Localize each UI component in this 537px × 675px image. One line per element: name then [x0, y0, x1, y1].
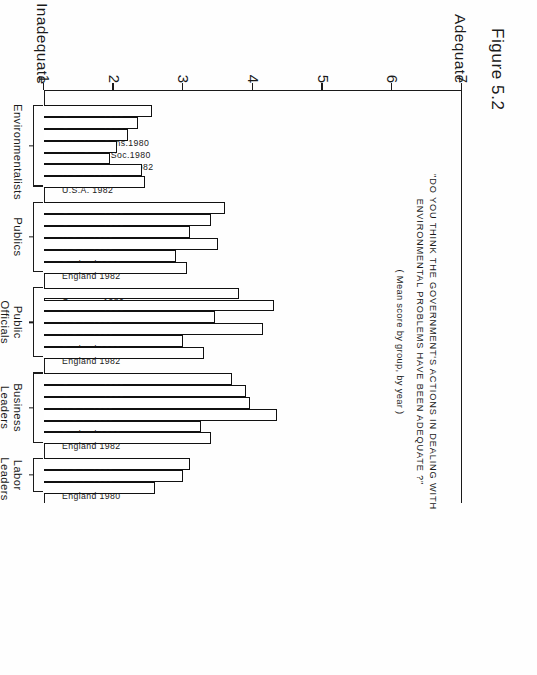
bar-group-labor-leaders: LaborLeaders [0, 457, 44, 493]
rotated-figure-stage: Figure 5.2 "DO YOU THINK THE GOVERNMENT'… [0, 0, 537, 675]
group-name: PublicOfficials [0, 287, 24, 358]
bar-label: England 1980 [62, 492, 120, 501]
bar-group-business-leaders: BusinessLeaders [0, 372, 44, 443]
axis-high-label: Adequate [451, 14, 469, 84]
bars-layer: Germany 1980Germany 1982U.K. Nat. Cons.1… [44, 91, 462, 503]
bar: U.S.A. 1980 [44, 397, 250, 409]
brace-left-tick [34, 372, 43, 373]
bar: U.S.A. 1982 [44, 409, 277, 421]
bar: U.S.A. 1980 [44, 164, 142, 176]
group-name-line: Officials [0, 287, 11, 358]
group-brace [32, 104, 43, 187]
group-brace [32, 372, 43, 443]
bar: Germany 1980 [44, 105, 152, 117]
group-name: Environmentalists [11, 104, 24, 187]
brace-left-tick [34, 458, 43, 459]
group-name-line: Public [11, 287, 24, 358]
bar-label: U.S.A. 1982 [62, 187, 113, 196]
group-labels-layer: EnvironmentalistsPublicsPublicOfficialsB… [0, 90, 44, 503]
group-name: Publics [11, 201, 24, 272]
tick-label: 1 [37, 75, 52, 83]
group-name-line: Leaders [0, 372, 11, 443]
group-name-line: Environmentalists [11, 104, 24, 187]
bar-label: England 1982 [62, 272, 120, 281]
bar: U.S.A. 1980 [44, 226, 190, 238]
brace-left-tick [34, 202, 43, 203]
tick-label: 2 [106, 75, 121, 83]
bar: England 1980 [44, 421, 201, 433]
group-name: BusinessLeaders [0, 372, 24, 443]
brace-left-tick [34, 287, 43, 288]
brace-right-tick [34, 491, 43, 492]
brace-right-tick [34, 356, 43, 357]
bar: England 1982 [44, 262, 187, 274]
bar: U.S.A. 1982 [44, 323, 263, 335]
bar: U.S.A. 1982 [44, 238, 218, 250]
group-name-line: Publics [11, 201, 24, 272]
brace-stem [29, 145, 34, 146]
bar: Germany 1980 [44, 373, 232, 385]
group-name-line: Business [11, 372, 24, 443]
bar: Germany 1982 [44, 214, 211, 226]
tick-mark [43, 83, 44, 90]
group-brace [32, 201, 43, 272]
bar: Germany 1980 [44, 202, 225, 214]
tick-label: 6 [385, 75, 400, 83]
group-name-line: Labor [11, 457, 24, 493]
bar: U.S.A. 1980 [44, 311, 215, 323]
brace-left-tick [34, 105, 43, 106]
group-brace [32, 457, 43, 493]
tick-mark [321, 83, 322, 90]
bar: U.S.A. 1982 [44, 176, 145, 188]
tick-mark [391, 83, 392, 90]
brace-stem [29, 407, 34, 408]
bar: Germany 1982 [44, 117, 138, 129]
group-name-line: Leaders [0, 457, 11, 493]
bar-group-environmentalists: Environmentalists [0, 104, 44, 187]
group-name: LaborLeaders [0, 457, 24, 493]
bar: England 1982 [44, 432, 211, 444]
bar-group-public-officials: PublicOfficials [0, 287, 44, 358]
group-brace [32, 287, 43, 358]
bar: Germany 1982 [44, 385, 246, 397]
axis-low-label: Inadequate [33, 3, 51, 85]
brace-stem [29, 474, 34, 475]
tick-label: 7 [455, 75, 470, 83]
brace-stem [29, 322, 34, 323]
tick-label: 4 [246, 75, 261, 83]
bar: U.K. Nat. Cons.1980 [44, 129, 128, 141]
brace-right-tick [34, 185, 43, 186]
tick-mark [112, 83, 113, 90]
tick-mark [252, 83, 253, 90]
bar: England 1980 [44, 482, 155, 494]
tick-label: 3 [176, 75, 191, 83]
bar: U.K. Cons. Soc.1980 [44, 141, 117, 153]
bar: U.S.A. 1982 [44, 470, 183, 482]
plot-area: 1234567 Germany 1980Germany 1982U.K. Nat… [44, 90, 462, 503]
bar-group-publics: Publics [0, 201, 44, 272]
brace-stem [29, 236, 34, 237]
bar: U.S.A. 1980 [44, 458, 190, 470]
bar-label: England 1982 [62, 443, 120, 452]
bar: England 1980 [44, 250, 176, 262]
figure-label: Figure 5.2 [487, 28, 507, 111]
tick-mark [461, 83, 462, 90]
bar: England 1980 [44, 335, 183, 347]
brace-right-tick [34, 442, 43, 443]
bar: England 1982 [44, 347, 204, 359]
bar-label: England 1982 [62, 357, 120, 366]
bar: U.K. Cons. Soc. 1982 [44, 153, 110, 165]
figure-page: Figure 5.2 "DO YOU THINK THE GOVERNMENT'… [0, 0, 537, 675]
tick-label: 5 [315, 75, 330, 83]
bar: Germany 1982 [44, 300, 274, 312]
brace-right-tick [34, 271, 43, 272]
bar: Germany 1980 [44, 288, 239, 300]
tick-mark [182, 83, 183, 90]
